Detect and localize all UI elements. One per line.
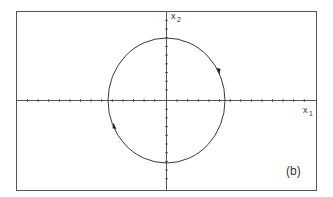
x2-axis-label: x2: [171, 11, 181, 23]
panel-label: (b): [286, 164, 301, 178]
phase-portrait-figure: x2 x1 (b): [0, 0, 333, 197]
arrow-icon-clockwise-lower-left: [113, 123, 117, 129]
x1-axis-label: x1: [303, 105, 313, 117]
